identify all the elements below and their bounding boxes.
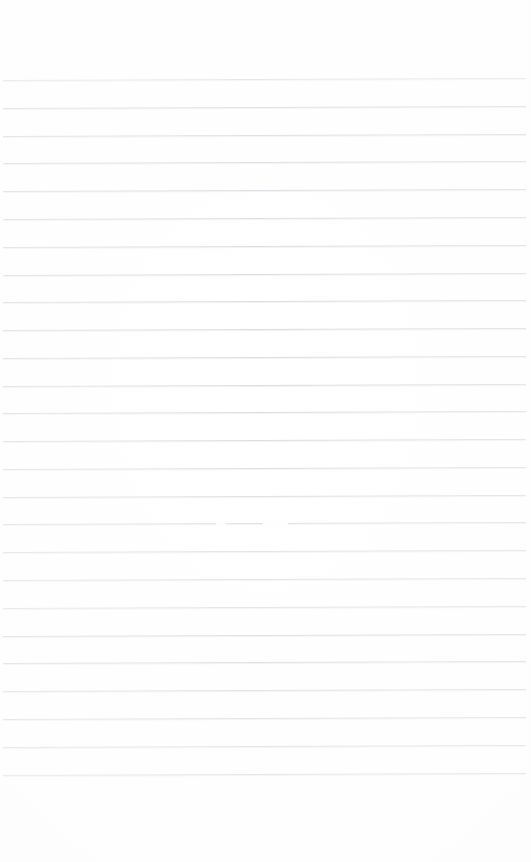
scanned-page <box>0 0 531 862</box>
handwritten-content <box>0 0 531 862</box>
writing-area[interactable] <box>0 0 531 862</box>
